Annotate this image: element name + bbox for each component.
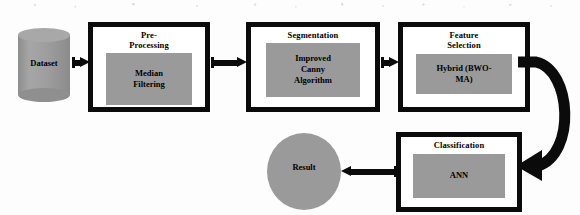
- node-classification[interactable]: Classification ANN: [396, 132, 522, 212]
- node-feature-selection[interactable]: Feature Selection Hybrid (BWO- MA): [398, 22, 530, 112]
- arrow-pre-processing-to-segmentation: [211, 57, 247, 68]
- arrow-classification-to-result: [341, 166, 397, 177]
- arrow-segmentation-to-feature-selection: [381, 57, 399, 68]
- node-feature-selection-title: Feature Selection: [403, 31, 525, 50]
- arrow-shaft: [350, 169, 397, 175]
- node-segmentation[interactable]: Segmentation Improved Canny Algorithm: [246, 22, 380, 112]
- node-result-label: Result: [292, 162, 315, 172]
- node-pre-processing-title: Pre- Processing: [93, 31, 205, 50]
- arrow-tail: [394, 166, 397, 177]
- node-pre-processing[interactable]: Pre- Processing Median Filtering: [88, 22, 210, 112]
- arrow-feature-selection-to-classification: [516, 54, 580, 182]
- node-segmentation-title: Segmentation: [251, 31, 375, 41]
- cylinder-top-ellipse: [18, 28, 70, 42]
- scan-noise-artifact: [0, 0, 580, 12]
- node-dataset-label: Dataset: [18, 58, 70, 68]
- arrow-shaft: [211, 60, 238, 66]
- node-classification-title: Classification: [401, 141, 517, 151]
- node-result[interactable]: Result: [267, 133, 341, 210]
- node-segmentation-method: Improved Canny Algorithm: [266, 43, 360, 97]
- node-dataset[interactable]: Dataset: [18, 28, 70, 102]
- flowchart-canvas: Dataset Pre- Processing Median Filtering…: [0, 0, 580, 215]
- node-pre-processing-method: Median Filtering: [106, 53, 192, 105]
- node-classification-method: ANN: [413, 154, 505, 198]
- cylinder-bottom-ellipse: [18, 88, 70, 102]
- node-feature-selection-method: Hybrid (BWO- MA): [416, 54, 512, 94]
